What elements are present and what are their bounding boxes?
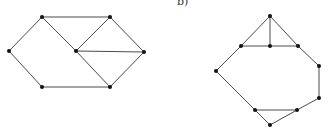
graph-node xyxy=(317,64,321,68)
graph-edge xyxy=(110,52,144,87)
graph-node xyxy=(108,15,112,19)
graph-edge xyxy=(216,46,241,71)
graph-node xyxy=(142,50,146,54)
graph-node xyxy=(40,15,44,19)
graph-edge xyxy=(216,71,255,110)
graph-node xyxy=(239,44,243,48)
graph-edge xyxy=(9,17,42,51)
graph-node xyxy=(296,44,300,48)
graph-node xyxy=(74,49,78,53)
graph-node xyxy=(268,14,272,18)
graph-a xyxy=(7,15,146,89)
graph-edge xyxy=(255,110,270,125)
graph-diagram xyxy=(0,0,330,131)
graph-node xyxy=(317,96,321,100)
graph-edge xyxy=(270,16,298,46)
graph-edge xyxy=(270,110,297,125)
graph-node xyxy=(268,44,272,48)
graph-node xyxy=(253,108,257,112)
graph-edge xyxy=(42,17,76,51)
graph-node xyxy=(268,123,272,127)
graph-node xyxy=(295,108,299,112)
graph-edge xyxy=(76,51,144,52)
graph-edge xyxy=(241,16,270,46)
graph-edge xyxy=(298,46,319,66)
graph-edge xyxy=(76,17,110,51)
graph-edge xyxy=(297,98,319,110)
graph-edge xyxy=(76,51,110,87)
graph-node xyxy=(214,69,218,73)
graph-edge xyxy=(9,51,42,87)
graph-node xyxy=(7,49,11,53)
graph-node xyxy=(40,85,44,89)
graph-b xyxy=(214,14,321,127)
graph-edge xyxy=(110,17,144,52)
graph-node xyxy=(108,85,112,89)
